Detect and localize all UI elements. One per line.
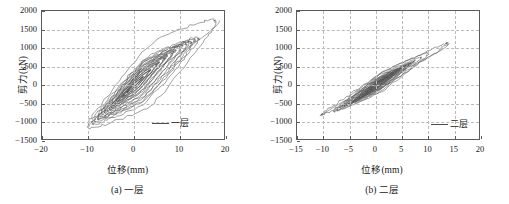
y-tick-mark bbox=[42, 30, 45, 31]
x-tick-mark bbox=[88, 136, 89, 139]
y-tick-mark bbox=[297, 122, 300, 123]
y-tick-mark bbox=[297, 85, 300, 86]
x-tick-label: −5 bbox=[344, 145, 353, 154]
y-tick-mark bbox=[42, 122, 45, 123]
y-tick-mark bbox=[297, 67, 300, 68]
y-tick-mark bbox=[42, 67, 45, 68]
x-tick-label: 20 bbox=[221, 145, 230, 154]
panel-caption-a: (a) 一层 bbox=[0, 182, 255, 196]
x-tick-mark bbox=[350, 136, 351, 139]
x-tick-mark bbox=[134, 136, 135, 139]
x-tick-label: 15 bbox=[449, 145, 458, 154]
x-tick-label: −10 bbox=[316, 145, 329, 154]
y-tick-mark bbox=[42, 48, 45, 49]
y-tick-label: −1500 bbox=[0, 136, 37, 145]
x-tick-label: −15 bbox=[289, 145, 302, 154]
y-axis-title-b: 剪力(kN) bbox=[270, 35, 284, 115]
figure-container: −1500−1000−5000500100015002000−20−100102… bbox=[0, 0, 509, 204]
backbone-curve bbox=[320, 43, 449, 116]
y-tick-label: −1000 bbox=[255, 117, 292, 126]
x-tick-mark bbox=[376, 136, 377, 139]
legend-a: 一层 bbox=[152, 119, 189, 128]
chart-panel-b: −1500−1000−5000500100015002000−15−10−505… bbox=[255, 0, 509, 204]
x-tick-mark bbox=[180, 136, 181, 139]
y-tick-mark bbox=[42, 11, 45, 12]
y-tick-mark bbox=[297, 104, 300, 105]
x-tick-mark bbox=[226, 136, 227, 139]
hysteresis-curves-a bbox=[42, 11, 226, 141]
x-axis-title-b: 位移(mm) bbox=[255, 162, 509, 176]
panel-caption-b: (b) 二层 bbox=[255, 182, 509, 196]
x-tick-mark bbox=[455, 136, 456, 139]
x-tick-label: 0 bbox=[131, 145, 135, 154]
x-tick-mark bbox=[428, 136, 429, 139]
x-tick-label: −20 bbox=[34, 145, 47, 154]
y-tick-mark bbox=[297, 30, 300, 31]
y-tick-mark bbox=[42, 141, 45, 142]
plot-area-a bbox=[41, 10, 225, 140]
legend-label-b: 二层 bbox=[450, 120, 468, 129]
y-tick-mark bbox=[297, 141, 300, 142]
y-tick-mark bbox=[297, 11, 300, 12]
legend-line-swatch-icon bbox=[152, 123, 169, 124]
chart-panel-a: −1500−1000−5000500100015002000−20−100102… bbox=[0, 0, 255, 204]
x-tick-mark bbox=[402, 136, 403, 139]
y-tick-mark bbox=[297, 48, 300, 49]
x-tick-label: 0 bbox=[373, 145, 377, 154]
y-tick-label: 2000 bbox=[0, 6, 37, 15]
y-tick-label: 1500 bbox=[0, 24, 37, 33]
x-tick-mark bbox=[481, 136, 482, 139]
y-tick-label: 1500 bbox=[255, 24, 292, 33]
y-tick-label: 2000 bbox=[255, 6, 292, 15]
x-tick-label: 5 bbox=[399, 145, 403, 154]
y-tick-mark bbox=[42, 85, 45, 86]
y-tick-mark bbox=[42, 104, 45, 105]
legend-line-swatch-icon bbox=[431, 124, 448, 125]
x-axis-title-a: 位移(mm) bbox=[0, 162, 255, 176]
x-tick-label: 10 bbox=[423, 145, 432, 154]
x-tick-mark bbox=[323, 136, 324, 139]
x-tick-label: −10 bbox=[80, 145, 93, 154]
legend-b: 二层 bbox=[431, 120, 468, 129]
y-axis-title-a: 剪力(kN) bbox=[15, 35, 29, 115]
y-tick-label: −1500 bbox=[255, 136, 292, 145]
x-tick-label: 10 bbox=[175, 145, 184, 154]
x-tick-mark bbox=[297, 136, 298, 139]
y-tick-label: −1000 bbox=[0, 117, 37, 126]
x-tick-mark bbox=[42, 136, 43, 139]
x-tick-label: 20 bbox=[476, 145, 485, 154]
legend-label-a: 一层 bbox=[171, 119, 189, 128]
